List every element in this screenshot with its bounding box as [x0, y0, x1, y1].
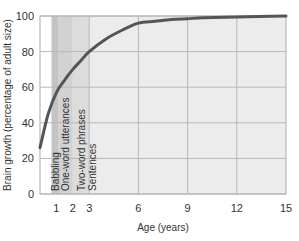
y-tick-label: 60	[22, 81, 34, 93]
y-axis-ticks: 020406080100	[16, 10, 34, 200]
y-tick-label: 0	[28, 188, 34, 200]
x-tick-label: 15	[280, 202, 292, 214]
x-tick-label: 1	[53, 202, 59, 214]
band-label: Sentences	[87, 144, 98, 191]
band-label: Babbling	[50, 152, 61, 191]
brain-growth-chart: BabblingOne-word utterancesTwo-word phra…	[0, 0, 299, 241]
x-tick-label: 9	[185, 202, 191, 214]
x-tick-label: 12	[231, 202, 243, 214]
x-tick-label: 2	[70, 202, 76, 214]
band-label: One-word utterances	[60, 98, 71, 191]
y-tick-label: 100	[16, 10, 34, 22]
x-tick-label: 3	[86, 202, 92, 214]
band-label: Two-word phrases	[76, 109, 87, 191]
y-tick-label: 80	[22, 46, 34, 58]
y-axis-title: Brain growth (percentage of adult size)	[2, 19, 13, 191]
y-tick-label: 40	[22, 117, 34, 129]
x-tick-label: 6	[135, 202, 141, 214]
y-tick-label: 20	[22, 152, 34, 164]
x-axis-title: Age (years)	[137, 222, 189, 233]
x-axis-ticks: 123691215	[53, 202, 292, 214]
